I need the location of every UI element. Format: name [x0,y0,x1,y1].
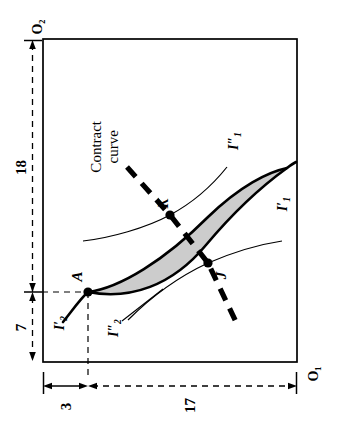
vertical-dim-arrow-bottom [29,352,36,361]
point-a-marker [83,287,92,296]
horizontal-dim-arrow-3-right [79,383,88,390]
vertical-dim-arrow-mid-lower [29,292,36,301]
curve-label-i1-doubleprime: I″1 [227,126,243,156]
curve-label-i2-prime: I′2 [53,309,69,337]
origin-2-label: O₂ [31,17,45,37]
point-label-a: A [70,268,85,286]
vertical-dim-arrow-top [29,40,36,49]
point-label-k: K [156,195,171,213]
dimension-label-7: 7 [14,318,29,338]
dimension-label-18: 18 [14,156,29,180]
vertical-dim-arrow-mid-upper [29,283,36,292]
dimension-label-3: 3 [59,397,74,417]
contract-curve-label-line1: Contract [88,102,105,192]
origin-1-label: O₁ [307,364,321,384]
point-j-marker [203,258,212,267]
horizontal-dim-arrow-17-left [88,383,97,390]
point-label-j: J [214,268,229,284]
edgeworth-box-figure: O₂ O₁ 18 7 3 17 A K J Contract curve I′1… [0,0,342,430]
horizontal-dim-arrow-right [288,383,297,390]
contract-curve-label-line2: curve [105,102,122,192]
horizontal-dim-arrow-left [43,383,52,390]
curve-label-i1-prime: I′1 [276,190,292,218]
dimension-label-17: 17 [183,394,198,418]
curve-label-i2-doubleprime: I″2 [107,313,123,343]
contract-curve-label: Contract curve [88,102,122,192]
